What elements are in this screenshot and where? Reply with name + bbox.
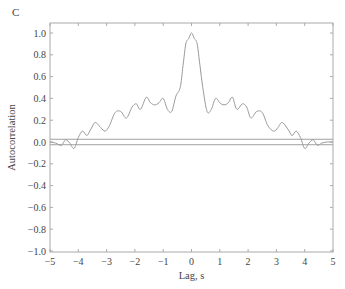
x-tick-label: −2 [130, 256, 141, 267]
y-tick-label: 0.8 [34, 49, 47, 60]
x-tick-label: −5 [45, 256, 56, 267]
panel-label: C [12, 6, 19, 18]
x-tick-label: −4 [73, 256, 84, 267]
autocorrelation-chart: C 1.00.80.60.40.20.0−0.2−0.4−0.6−0.8−1.0… [0, 0, 345, 289]
y-tick-label: 0.0 [34, 137, 47, 148]
y-tick-label: 1.0 [34, 28, 47, 39]
y-tick-label: −0.2 [28, 158, 46, 169]
x-tick-label: 3 [274, 256, 279, 267]
x-tick-label: 0 [189, 256, 194, 267]
y-axis-ticks: 1.00.80.60.40.20.0−0.2−0.4−0.6−0.8−1.0 [28, 28, 333, 257]
confidence-bounds [50, 139, 333, 144]
y-axis-label: Autocorrelation [6, 104, 17, 171]
y-tick-label: 0.6 [34, 71, 47, 82]
y-tick-label: 0.4 [34, 93, 47, 104]
x-tick-label: −3 [101, 256, 112, 267]
y-tick-label: −1.0 [28, 246, 46, 257]
x-tick-label: 2 [246, 256, 251, 267]
plot-frame [50, 23, 333, 252]
y-tick-label: −0.8 [28, 224, 46, 235]
y-tick-label: 0.2 [34, 115, 47, 126]
y-tick-label: −0.6 [28, 202, 46, 213]
x-tick-label: 4 [302, 256, 307, 267]
x-tick-label: −1 [158, 256, 169, 267]
x-tick-label: 1 [217, 256, 222, 267]
autocorrelation-line [50, 33, 333, 149]
x-axis-label: Lag, s [179, 270, 205, 281]
x-tick-label: 5 [331, 256, 336, 267]
y-tick-label: −0.4 [28, 180, 46, 191]
